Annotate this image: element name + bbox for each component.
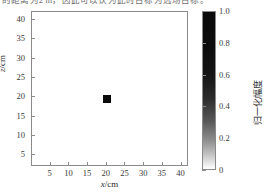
colorbar-tick-mark (202, 138, 206, 139)
colorbar (202, 11, 216, 170)
y-tick-label: 25 (5, 72, 25, 82)
plot-axes (31, 11, 188, 166)
y-tick-label: 5 (5, 149, 25, 159)
y-tick-mark (31, 58, 35, 59)
colorbar-tick-mark (202, 170, 206, 171)
colorbar-tick-mark (202, 75, 206, 76)
y-tick-mark (31, 38, 35, 39)
colorbar-tick-label: 0.2 (219, 133, 230, 143)
truncated-caption-label: 的距离为2 m，因此可以认为此时目标为远场目标。 (0, 0, 264, 5)
colorbar-tick-mark (202, 106, 206, 107)
colorbar-tick-label: 0.6 (219, 70, 230, 80)
x-axis-title: x/cm (31, 179, 188, 189)
x-tick-mark (106, 162, 107, 166)
y-tick-mark (31, 154, 35, 155)
x-tick-mark (68, 162, 69, 166)
colorbar-tick-label: 0 (219, 165, 223, 175)
colorbar-tick-label: 0.4 (219, 101, 230, 111)
colorbar-tick-label: 0.8 (219, 38, 230, 48)
x-tick-mark (87, 162, 88, 166)
colorbar-tick-mark (202, 11, 206, 12)
y-tick-label: 20 (5, 91, 25, 101)
y-tick-mark (31, 135, 35, 136)
y-axis-title: z/cm (0, 55, 7, 72)
x-tick-mark (124, 162, 125, 166)
y-tick-mark (31, 96, 35, 97)
x-tick-mark (143, 162, 144, 166)
y-tick-mark (31, 19, 35, 20)
colorbar-tick-mark (202, 43, 206, 44)
x-tick-mark (181, 162, 182, 166)
colorbar-tick-label: 1.0 (219, 6, 230, 16)
y-tick-label: 35 (5, 33, 25, 43)
y-tick-label: 40 (5, 14, 25, 24)
colorbar-title: 归一化幅度 (251, 80, 264, 125)
y-tick-label: 15 (5, 111, 25, 121)
y-tick-label: 30 (5, 53, 25, 63)
data-point-marker (103, 95, 111, 103)
y-tick-mark (31, 77, 35, 78)
x-tick-mark (50, 162, 51, 166)
x-tick-label: 40 (169, 168, 193, 178)
y-tick-mark (31, 116, 35, 117)
figure-heatmap-target-localization: 的距离为2 m，因此可以认为此时目标为远场目标。 510152025303540… (0, 0, 264, 193)
x-tick-mark (162, 162, 163, 166)
y-tick-label: 10 (5, 130, 25, 140)
